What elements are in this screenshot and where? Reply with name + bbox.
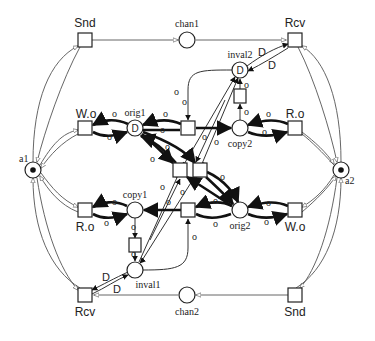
svg-text:o: o [165, 141, 170, 152]
transition-inval1-small[interactable] [129, 238, 141, 252]
svg-text:o: o [166, 196, 171, 207]
place-chan2[interactable] [179, 287, 195, 303]
label-a2: a2 [345, 175, 354, 186]
svg-text:o: o [160, 124, 165, 135]
label-ro-right: R.o [286, 107, 305, 121]
transition-center-left[interactable] [173, 163, 187, 177]
label-copy2: copy2 [228, 138, 252, 149]
label-snd-top: Snd [74, 16, 95, 30]
transition-snd-top[interactable] [78, 33, 92, 47]
svg-text:D: D [113, 283, 121, 295]
svg-text:o: o [163, 108, 168, 119]
transition-ro-left[interactable] [78, 203, 92, 217]
label-orig1: orig1 [124, 107, 145, 118]
svg-text:o: o [220, 171, 225, 182]
svg-text:o: o [131, 221, 136, 232]
label-inval2: inval2 [228, 49, 253, 60]
transition-wo-right[interactable] [288, 203, 302, 217]
svg-text:o: o [264, 216, 269, 227]
label-chan1: chan1 [175, 18, 199, 29]
svg-text:o: o [112, 196, 117, 207]
svg-text:D: D [102, 271, 110, 283]
transition-snd-bottom[interactable] [288, 288, 302, 302]
svg-text:o: o [266, 108, 271, 119]
label-wo-right: W.o [285, 220, 306, 234]
svg-text:o: o [214, 136, 219, 147]
svg-text:D: D [268, 59, 276, 71]
svg-text:o: o [107, 131, 112, 142]
label-rcv-bottom: Rcv [75, 305, 96, 319]
svg-text:o: o [174, 86, 179, 97]
label-inval1: inval1 [136, 279, 161, 290]
petri-net-diagram: o o o o o o o o o o o o o o o o o o o o … [0, 0, 375, 341]
svg-text:o: o [112, 108, 117, 119]
svg-text:D: D [258, 46, 266, 58]
transition-center-right[interactable] [193, 163, 207, 177]
transition-wo-left[interactable] [78, 121, 92, 135]
label-orig2: orig2 [229, 220, 250, 231]
transition-rcv-top[interactable] [288, 33, 302, 47]
place-orig2[interactable] [232, 202, 248, 218]
place-inval1[interactable] [127, 262, 143, 278]
token-inval2: D [236, 65, 243, 76]
svg-text:o: o [160, 181, 165, 192]
svg-text:o: o [104, 217, 109, 228]
svg-text:o: o [150, 153, 155, 164]
label-wo-left: W.o [76, 107, 97, 121]
place-copy1[interactable] [127, 202, 143, 218]
token-orig1: D [131, 123, 138, 134]
token-a2 [338, 167, 344, 173]
transition-rcv-bottom[interactable] [78, 288, 92, 302]
svg-text:o: o [213, 195, 218, 206]
inval-arcs [92, 44, 288, 294]
label-rcv-top: Rcv [285, 16, 306, 30]
svg-text:o: o [180, 186, 185, 197]
svg-text:o: o [182, 96, 187, 107]
svg-text:o: o [244, 79, 249, 90]
label-snd-bottom: Snd [284, 305, 305, 319]
place-copy2[interactable] [232, 120, 248, 136]
svg-text:o: o [244, 106, 249, 117]
svg-text:o: o [213, 218, 218, 229]
svg-text:o: o [266, 197, 271, 208]
token-a1 [30, 167, 36, 173]
svg-text:o: o [262, 126, 267, 137]
label-a1: a1 [19, 153, 28, 164]
svg-text:o: o [202, 131, 207, 142]
place-chan1[interactable] [179, 32, 195, 48]
svg-text:o: o [192, 231, 197, 242]
transition-top-middle[interactable] [181, 121, 195, 135]
label-ro-left: R.o [76, 220, 95, 234]
transition-inval2-small[interactable] [234, 89, 246, 103]
label-copy1: copy1 [123, 189, 147, 200]
transition-lower-middle[interactable] [181, 203, 195, 217]
transition-ro-right[interactable] [288, 121, 302, 135]
label-chan2: chan2 [175, 306, 199, 317]
